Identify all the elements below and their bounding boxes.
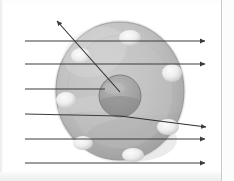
scattering-diagram [0,0,234,181]
spot-top [119,30,141,46]
central-core-highlight [103,82,125,94]
scattering-scene [0,0,234,181]
spot-left [56,92,76,108]
figure-root: Scattering of parallel rays by a sphere … [0,0,234,181]
spot-lower-left [73,136,93,150]
spot-right [162,64,182,82]
central-core-group [99,75,141,117]
spot-bottom [122,148,144,162]
